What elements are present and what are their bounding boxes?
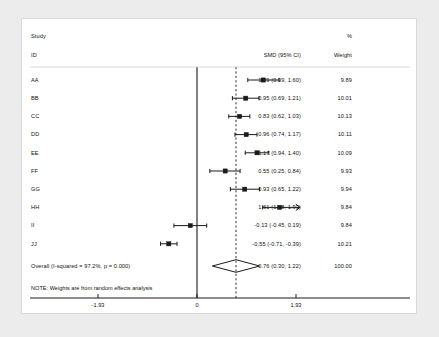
- study-row-DD: [235, 132, 257, 136]
- study-row-EE: [245, 151, 269, 155]
- effect-marker: [244, 96, 248, 100]
- forest-plot-graphics: [22, 19, 418, 315]
- effect-marker: [188, 223, 192, 227]
- study-row-HH: [263, 204, 300, 210]
- forest-plot-figure: Study ID SMD (95% CI) % Weight AA1.29 (0…: [0, 0, 439, 337]
- effect-marker: [244, 132, 248, 136]
- plot-panel: Study ID SMD (95% CI) % Weight AA1.29 (0…: [21, 18, 417, 314]
- study-row-JJ: [161, 242, 177, 246]
- effect-marker: [167, 242, 171, 246]
- study-row-AA: [248, 78, 279, 82]
- effect-marker: [243, 187, 247, 191]
- study-row-CC: [229, 114, 250, 118]
- effect-marker: [277, 205, 281, 209]
- study-row-II: [174, 223, 207, 227]
- effect-marker: [237, 114, 241, 118]
- effect-marker: [255, 151, 259, 155]
- effect-marker: [223, 169, 227, 173]
- effect-marker: [261, 78, 265, 82]
- study-row-GG: [230, 187, 259, 191]
